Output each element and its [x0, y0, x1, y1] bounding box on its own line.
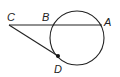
- geometry-diagram: C B A D: [0, 0, 120, 77]
- label-a: A: [103, 16, 111, 28]
- label-d: D: [54, 63, 62, 75]
- label-c: C: [7, 11, 15, 23]
- label-b: B: [42, 11, 49, 23]
- point-d-dot: [56, 54, 60, 58]
